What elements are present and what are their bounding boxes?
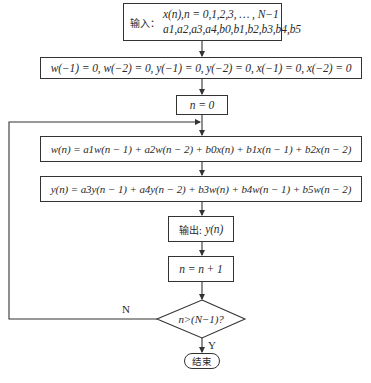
input-label: 输入： bbox=[130, 15, 160, 30]
increment-text: n = n + 1 bbox=[179, 263, 222, 275]
w-equation-text: w(n) = a1w(n − 1) + a2w(n − 2) + b0x(n) … bbox=[51, 143, 351, 155]
output-box: 输出: y(n) bbox=[168, 216, 234, 242]
init-text: w(−1) = 0, w(−2) = 0, y(−1) = 0, y(−2) =… bbox=[51, 62, 352, 74]
flowchart: 输入： x(n),n = 0,1,2,3, … , N−1 a1,a2,a3,a… bbox=[0, 0, 371, 383]
output-label: 输出: bbox=[179, 222, 202, 237]
input-line-2: a1,a2,a3,a4,b0,b1,b2,b3,b4,b5 bbox=[163, 22, 301, 37]
end-text: 结束 bbox=[192, 354, 212, 368]
n-init-box: n = 0 bbox=[176, 95, 228, 115]
end-terminal: 结束 bbox=[184, 353, 220, 369]
yes-label: Y bbox=[208, 339, 216, 351]
no-label: N bbox=[122, 303, 130, 315]
init-box: w(−1) = 0, w(−2) = 0, y(−1) = 0, y(−2) =… bbox=[40, 57, 362, 79]
y-equation-box: y(n) = a3y(n − 1) + a4y(n − 2) + b3w(n) … bbox=[40, 176, 362, 202]
n-init-text: n = 0 bbox=[190, 99, 215, 111]
input-box: 输入： x(n),n = 0,1,2,3, … , N−1 a1,a2,a3,a… bbox=[123, 3, 282, 41]
increment-box: n = n + 1 bbox=[168, 256, 234, 282]
y-equation-text: y(n) = a3y(n − 1) + a4y(n − 2) + b3w(n) … bbox=[51, 183, 351, 195]
input-line-1: x(n),n = 0,1,2,3, … , N−1 bbox=[163, 7, 301, 22]
output-value: y(n) bbox=[205, 223, 223, 235]
decision-text: n>(N−1)? bbox=[157, 300, 245, 338]
w-equation-box: w(n) = a1w(n − 1) + a2w(n − 2) + b0x(n) … bbox=[40, 136, 362, 162]
